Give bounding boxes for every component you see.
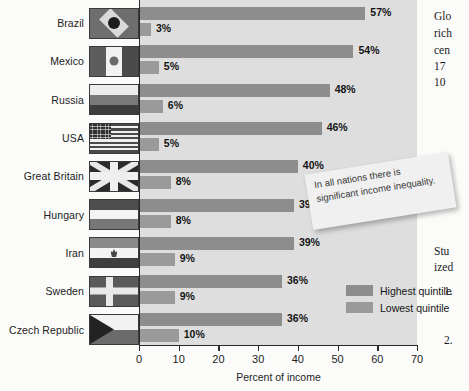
bar-value-label: 3% <box>156 22 171 34</box>
bar-value-label: 9% <box>180 290 195 302</box>
x-axis-tick <box>298 345 299 351</box>
flag-usa-icon <box>89 123 139 154</box>
margin-text-line: 2. <box>444 334 453 346</box>
country-name: Hungary <box>44 209 89 221</box>
page-margin-text: Glorichcen1710Stuized1.2. <box>432 0 469 391</box>
y-axis-line <box>139 0 140 346</box>
bar-hi <box>139 122 322 135</box>
x-axis-tick-label: 40 <box>292 353 304 365</box>
bar-row: 54%5% <box>139 42 417 80</box>
bar-hi <box>139 313 282 326</box>
flag-brazil-icon <box>89 8 139 39</box>
country-row: Russia <box>0 81 139 119</box>
x-axis-tick <box>179 345 180 351</box>
x-axis-line <box>139 345 418 346</box>
legend-swatch <box>346 302 373 313</box>
bar-hi <box>139 7 365 20</box>
bar-hi <box>139 275 282 288</box>
bar-lo <box>139 215 171 228</box>
bar-row: 39%9% <box>139 234 417 272</box>
bar-value-label: 5% <box>164 137 179 149</box>
country-name: Great Britain <box>24 170 89 182</box>
bar-lo <box>139 100 163 113</box>
margin-text-line: ized <box>434 261 453 273</box>
country-row: Czech Republic <box>0 310 139 348</box>
margin-text-line: Glo <box>434 10 451 22</box>
bar-value-label: 57% <box>370 6 391 18</box>
bar-hi <box>139 160 298 173</box>
margin-text-line: 1. <box>444 285 453 297</box>
flag-iran-icon <box>89 237 139 268</box>
bar-lo <box>139 61 159 74</box>
x-axis-tick-label: 50 <box>331 353 343 365</box>
x-axis-tick <box>218 345 219 351</box>
margin-text-line: rich <box>434 27 452 39</box>
flag-russia-icon <box>89 84 139 115</box>
chart-page: BrazilMexicoRussiaUSAGreat BritainHungar… <box>0 0 469 391</box>
flag-sweden-icon <box>89 276 139 307</box>
x-axis-tick <box>338 345 339 351</box>
margin-text-line: cen <box>434 44 450 56</box>
country-name: Czech Republic <box>9 324 89 336</box>
country-row: Iran <box>0 234 139 272</box>
country-row: Brazil <box>0 4 139 42</box>
x-axis-tick <box>377 345 378 351</box>
bar-value-label: 9% <box>180 252 195 264</box>
country-row: Great Britain <box>0 157 139 195</box>
country-name: Brazil <box>57 17 89 29</box>
bar-hi <box>139 45 353 58</box>
country-row: Sweden <box>0 272 139 310</box>
bar-row: 57%3% <box>139 4 417 42</box>
x-axis-tick-label: 30 <box>252 353 264 365</box>
bar-value-label: 8% <box>176 175 191 187</box>
bar-lo <box>139 23 151 36</box>
bar-value-label: 36% <box>287 312 308 324</box>
x-axis-tick <box>139 345 140 351</box>
flag-czech-republic-icon <box>89 314 139 345</box>
x-axis-tick <box>258 345 259 351</box>
country-row: Mexico <box>0 42 139 80</box>
bar-value-label: 36% <box>287 274 308 286</box>
bar-lo <box>139 329 179 342</box>
bar-lo <box>139 253 175 266</box>
x-axis: Percent of income 010203040506070 <box>139 345 418 391</box>
x-axis-title: Percent of income <box>139 371 418 383</box>
flag-mexico-icon <box>89 46 139 77</box>
bar-row: 46%5% <box>139 119 417 157</box>
x-axis-tick-label: 0 <box>136 353 142 365</box>
flag-great-britain-icon <box>89 161 139 192</box>
bar-value-label: 5% <box>164 60 179 72</box>
bar-lo <box>139 176 171 189</box>
x-axis-tick-label: 60 <box>371 353 383 365</box>
bar-value-label: 10% <box>184 328 205 340</box>
bar-value-label: 40% <box>303 159 324 171</box>
x-axis-tick <box>417 345 418 351</box>
x-axis-tick-label: 20 <box>212 353 224 365</box>
bar-value-label: 8% <box>176 214 191 226</box>
bar-value-label: 48% <box>335 83 356 95</box>
country-name: Russia <box>51 94 89 106</box>
bar-lo <box>139 291 175 304</box>
bar-hi <box>139 237 294 250</box>
bar-value-label: 39% <box>299 236 320 248</box>
country-name: Mexico <box>50 55 89 67</box>
margin-text-line: 10 <box>434 76 446 88</box>
x-axis-tick-label: 10 <box>173 353 185 365</box>
bar-value-label: 6% <box>168 99 183 111</box>
flag-hungary-icon <box>89 199 139 230</box>
legend-swatch <box>346 285 373 296</box>
country-name: Sweden <box>45 285 89 297</box>
margin-text-line: 17 <box>434 60 446 72</box>
country-name: USA <box>62 132 89 144</box>
x-axis-tick-label: 70 <box>411 353 423 365</box>
bar-lo <box>139 138 159 151</box>
bar-hi <box>139 84 330 97</box>
margin-text-line: Stu <box>434 245 449 257</box>
bar-value-label: 46% <box>327 121 348 133</box>
bar-hi <box>139 199 294 212</box>
bar-row: 48%6% <box>139 81 417 119</box>
country-label-column: BrazilMexicoRussiaUSAGreat BritainHungar… <box>0 0 139 345</box>
bar-value-label: 54% <box>358 44 379 56</box>
country-name: Iran <box>66 247 90 259</box>
country-row: USA <box>0 119 139 157</box>
